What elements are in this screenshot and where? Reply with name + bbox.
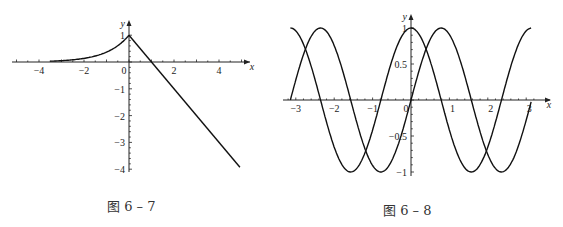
y-axis-arrow-icon	[409, 14, 414, 20]
y-tick-label: −4	[114, 164, 125, 175]
x-tick-label: 2	[172, 65, 177, 76]
x-tick-label: −3	[290, 103, 301, 114]
figure-6-7-caption: 图 6 – 7	[107, 196, 155, 215]
series-exp	[50, 35, 129, 61]
y-tick-label: −1	[396, 167, 407, 178]
x-axis-label: x	[249, 61, 255, 72]
x-tick-label: 1	[450, 103, 455, 114]
y-tick-label: −0.5	[389, 131, 407, 142]
series-linear	[129, 35, 240, 167]
x-tick-label: −2	[329, 103, 340, 114]
x-tick-label: −1	[367, 103, 378, 114]
x-tick-label: −4	[34, 65, 45, 76]
x-tick-label: 0	[122, 65, 127, 76]
y-axis-label: y	[120, 18, 126, 29]
y-axis-label: y	[402, 11, 408, 22]
figure-canvas: −4−20241−1−2−3−4yx−3−2−1012310.5−0.5−1yx	[0, 0, 563, 227]
y-tick-label: −3	[114, 137, 125, 148]
x-tick-label: 2	[488, 103, 493, 114]
y-axis-arrow-icon	[127, 20, 132, 26]
figure-6-8-caption: 图 6 – 8	[383, 200, 431, 219]
chart-figure-6-8: −3−2−1012310.5−0.5−1yx	[283, 11, 552, 178]
x-axis-label: x	[546, 99, 552, 110]
y-tick-label: −1	[114, 84, 125, 95]
x-tick-label: −2	[79, 65, 90, 76]
x-tick-label: 4	[217, 65, 222, 76]
chart-figure-6-7: −4−20241−1−2−3−4yx	[12, 18, 255, 175]
y-tick-label: −2	[114, 111, 125, 122]
y-tick-label: 0.5	[395, 59, 408, 70]
